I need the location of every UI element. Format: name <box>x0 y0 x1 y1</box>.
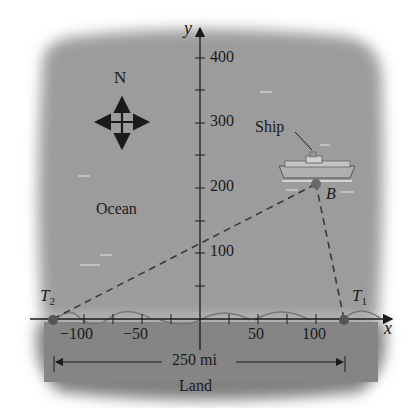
point-t1 <box>339 315 349 325</box>
point-b-label: B <box>326 185 336 203</box>
x-tick-neg100: −100 <box>60 325 93 343</box>
ship-label: Ship <box>255 118 284 136</box>
y-tick-100: 100 <box>210 242 234 260</box>
distance-label: 250 mi <box>172 351 217 369</box>
x-tick-100: 100 <box>302 325 326 343</box>
point-t2-label: T2 <box>40 286 55 307</box>
y-axis-label: y <box>184 18 192 39</box>
land-label: Land <box>179 377 212 395</box>
y-tick-400: 400 <box>210 48 234 66</box>
y-tick-300: 300 <box>210 112 234 130</box>
ship-location-diagram: y x 400 300 200 100 −100 −50 50 100 N Oc… <box>0 0 411 414</box>
x-tick-neg50: −50 <box>123 325 148 343</box>
x-axis-label: x <box>384 318 392 339</box>
compass-north-label: N <box>114 68 126 88</box>
point-t2-subscript: 2 <box>49 295 55 307</box>
ocean-label: Ocean <box>96 200 137 218</box>
point-b <box>311 179 321 189</box>
point-t2 <box>48 315 58 325</box>
point-t1-subscript: 1 <box>361 295 367 307</box>
y-tick-200: 200 <box>210 177 234 195</box>
point-t1-label: T1 <box>352 286 367 307</box>
x-tick-50: 50 <box>248 325 264 343</box>
